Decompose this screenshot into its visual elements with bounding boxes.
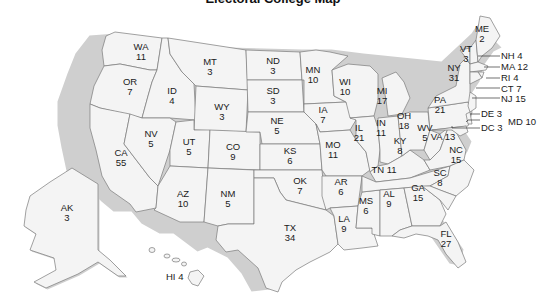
state-fl[interactable] <box>392 222 466 268</box>
label-az: AZ10 <box>177 188 189 209</box>
label-hi: HI 4 <box>166 271 183 282</box>
label-ca: CA55 <box>114 147 128 168</box>
label-nh: NH 4 <box>501 50 523 61</box>
label-pa: PA21 <box>434 94 447 115</box>
label-mi: MI17 <box>377 85 388 106</box>
label-ny: NY31 <box>447 62 461 83</box>
label-md: MD 10 <box>508 116 536 127</box>
label-fl: FL27 <box>440 228 451 249</box>
label-wi: WI10 <box>339 76 351 97</box>
label-dc: DC 3 <box>481 122 503 133</box>
label-de: DE 3 <box>481 108 502 119</box>
label-ma: MA 12 <box>501 61 528 72</box>
label-ri: RI 4 <box>501 72 518 83</box>
label-tn: TN 11 <box>371 164 396 175</box>
us-electoral-map: WA11 OR7 CA55 ID4 NV5 MT3 WY3 UT5 AZ10 C… <box>0 0 546 308</box>
label-nj: NJ 15 <box>501 93 526 104</box>
label-il: IL21 <box>354 122 365 143</box>
label-mn: MN10 <box>306 64 321 85</box>
label-nc: NC15 <box>449 144 463 165</box>
label-oh: OH18 <box>397 110 411 131</box>
state-wa[interactable] <box>102 32 162 70</box>
label-in: IN11 <box>376 117 386 138</box>
label-tx: TX34 <box>284 222 297 243</box>
label-va: VA 13 <box>431 131 456 142</box>
